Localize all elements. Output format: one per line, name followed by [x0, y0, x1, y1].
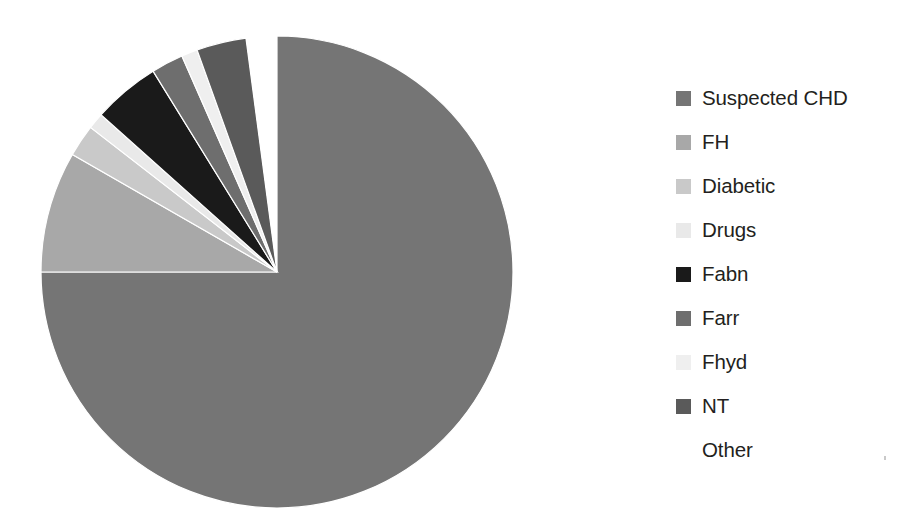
- legend-item-suspected-chd[interactable]: Suspected CHD: [676, 76, 906, 120]
- pie-chart-figure: Suspected CHDFHDiabeticDrugsFabnFarrFhyd…: [0, 0, 913, 531]
- chart-legend: Suspected CHDFHDiabeticDrugsFabnFarrFhyd…: [676, 76, 906, 472]
- legend-swatch-icon: [676, 267, 691, 282]
- legend-item-label: Fabn: [702, 263, 748, 285]
- legend-item-label: FH: [702, 131, 729, 153]
- page-speck: [884, 456, 886, 460]
- legend-swatch-icon: [676, 223, 691, 238]
- legend-item-drugs[interactable]: Drugs: [676, 208, 906, 252]
- legend-swatch-icon: [676, 355, 691, 370]
- legend-item-label: Suspected CHD: [702, 87, 848, 109]
- legend-item-label: Other: [702, 439, 753, 461]
- legend-item-label: Diabetic: [702, 175, 775, 197]
- legend-item-label: Fhyd: [702, 351, 747, 373]
- legend-swatch-icon: [676, 135, 691, 150]
- legend-swatch-icon: [676, 399, 691, 414]
- pie-slice-group: [41, 36, 513, 508]
- legend-item-label: Farr: [702, 307, 739, 329]
- legend-item-fh[interactable]: FH: [676, 120, 906, 164]
- legend-item-label: NT: [702, 395, 729, 417]
- legend-item-diabetic[interactable]: Diabetic: [676, 164, 906, 208]
- legend-swatch-icon: [676, 311, 691, 326]
- pie-plot-area: [0, 0, 620, 531]
- legend-item-fhyd[interactable]: Fhyd: [676, 340, 906, 384]
- legend-item-nt[interactable]: NT: [676, 384, 906, 428]
- legend-swatch-icon: [676, 179, 691, 194]
- legend-item-other[interactable]: Other: [676, 428, 906, 472]
- pie-svg: [0, 0, 620, 531]
- legend-item-farr[interactable]: Farr: [676, 296, 906, 340]
- legend-swatch-icon: [676, 443, 691, 458]
- legend-swatch-icon: [676, 91, 691, 106]
- legend-item-fabn[interactable]: Fabn: [676, 252, 906, 296]
- legend-item-label: Drugs: [702, 219, 756, 241]
